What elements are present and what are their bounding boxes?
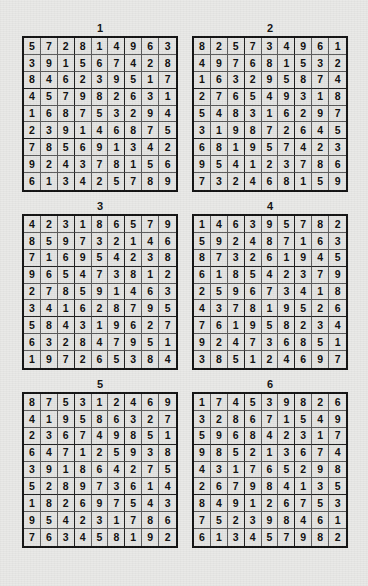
sudoku-cell[interactable]: 7	[41, 394, 58, 411]
sudoku-cell[interactable]: 1	[92, 394, 109, 411]
sudoku-cell[interactable]: 4	[108, 250, 125, 267]
sudoku-cell[interactable]: 1	[194, 216, 211, 233]
sudoku-cell[interactable]: 2	[142, 411, 159, 428]
sudoku-cell[interactable]: 9	[278, 89, 295, 106]
sudoku-cell[interactable]: 9	[108, 317, 125, 334]
sudoku-cell[interactable]: 2	[295, 317, 312, 334]
sudoku-cell[interactable]: 4	[92, 428, 109, 445]
sudoku-cell[interactable]: 8	[211, 351, 228, 368]
sudoku-cell[interactable]: 7	[295, 216, 312, 233]
sudoku-cell[interactable]: 8	[108, 529, 125, 546]
sudoku-cell[interactable]: 2	[142, 317, 159, 334]
sudoku-cell[interactable]: 4	[262, 267, 279, 284]
sudoku-cell[interactable]: 5	[159, 300, 176, 317]
sudoku-cell[interactable]: 3	[295, 428, 312, 445]
sudoku-cell[interactable]: 9	[245, 139, 262, 156]
sudoku-cell[interactable]: 4	[108, 38, 125, 55]
sudoku-cell[interactable]: 6	[159, 512, 176, 529]
sudoku-cell[interactable]: 2	[278, 428, 295, 445]
sudoku-cell[interactable]: 9	[245, 317, 262, 334]
sudoku-cell[interactable]: 2	[262, 156, 279, 173]
sudoku-cell[interactable]: 5	[142, 334, 159, 351]
sudoku-cell[interactable]: 1	[159, 89, 176, 106]
sudoku-cell[interactable]: 2	[329, 529, 346, 546]
sudoku-cell[interactable]: 4	[75, 173, 92, 190]
sudoku-cell[interactable]: 6	[228, 89, 245, 106]
sudoku-cell[interactable]: 8	[108, 156, 125, 173]
sudoku-cell[interactable]: 6	[92, 55, 109, 72]
sudoku-cell[interactable]: 9	[24, 512, 41, 529]
sudoku-cell[interactable]: 2	[24, 428, 41, 445]
sudoku-cell[interactable]: 3	[75, 156, 92, 173]
sudoku-cell[interactable]: 1	[295, 233, 312, 250]
sudoku-cell[interactable]: 2	[125, 462, 142, 479]
sudoku-cell[interactable]: 9	[194, 445, 211, 462]
sudoku-cell[interactable]: 7	[228, 300, 245, 317]
sudoku-cell[interactable]: 1	[142, 478, 159, 495]
sudoku-cell[interactable]: 4	[142, 233, 159, 250]
sudoku-cell[interactable]: 4	[295, 512, 312, 529]
sudoku-cell[interactable]: 8	[125, 428, 142, 445]
sudoku-cell[interactable]: 5	[228, 351, 245, 368]
sudoku-cell[interactable]: 7	[142, 462, 159, 479]
sudoku-cell[interactable]: 3	[228, 72, 245, 89]
sudoku-cell[interactable]: 8	[125, 122, 142, 139]
sudoku-cell[interactable]: 8	[58, 284, 75, 301]
sudoku-cell[interactable]: 9	[312, 351, 329, 368]
sudoku-cell[interactable]: 9	[125, 334, 142, 351]
sudoku-cell[interactable]: 2	[142, 55, 159, 72]
sudoku-cell[interactable]: 1	[125, 156, 142, 173]
sudoku-cell[interactable]: 3	[41, 122, 58, 139]
sudoku-cell[interactable]: 1	[58, 462, 75, 479]
sudoku-cell[interactable]: 8	[159, 55, 176, 72]
sudoku-cell[interactable]: 7	[24, 529, 41, 546]
sudoku-cell[interactable]: 1	[194, 394, 211, 411]
sudoku-cell[interactable]: 5	[245, 394, 262, 411]
sudoku-cell[interactable]: 9	[58, 233, 75, 250]
sudoku-cell[interactable]: 6	[92, 462, 109, 479]
sudoku-cell[interactable]: 5	[211, 512, 228, 529]
sudoku-cell[interactable]: 6	[75, 300, 92, 317]
sudoku-cell[interactable]: 5	[41, 512, 58, 529]
sudoku-cell[interactable]: 1	[278, 55, 295, 72]
sudoku-cell[interactable]: 5	[41, 89, 58, 106]
sudoku-cell[interactable]: 6	[108, 122, 125, 139]
sudoku-cell[interactable]: 3	[245, 216, 262, 233]
sudoku-cell[interactable]: 1	[295, 478, 312, 495]
sudoku-cell[interactable]: 5	[245, 89, 262, 106]
sudoku-cell[interactable]: 2	[194, 478, 211, 495]
sudoku-cell[interactable]: 7	[92, 267, 109, 284]
sudoku-cell[interactable]: 7	[312, 72, 329, 89]
sudoku-cell[interactable]: 7	[278, 233, 295, 250]
sudoku-cell[interactable]: 9	[278, 300, 295, 317]
sudoku-cell[interactable]: 7	[211, 250, 228, 267]
sudoku-cell[interactable]: 4	[125, 55, 142, 72]
sudoku-cell[interactable]: 4	[159, 106, 176, 123]
sudoku-cell[interactable]: 9	[108, 72, 125, 89]
sudoku-cell[interactable]: 6	[312, 233, 329, 250]
sudoku-cell[interactable]: 9	[92, 495, 109, 512]
sudoku-cell[interactable]: 8	[312, 156, 329, 173]
sudoku-cell[interactable]: 9	[159, 173, 176, 190]
sudoku-cell[interactable]: 7	[194, 512, 211, 529]
sudoku-cell[interactable]: 4	[125, 394, 142, 411]
sudoku-cell[interactable]: 2	[41, 156, 58, 173]
sudoku-cell[interactable]: 6	[245, 411, 262, 428]
sudoku-cell[interactable]: 7	[159, 72, 176, 89]
sudoku-cell[interactable]: 9	[312, 106, 329, 123]
sudoku-cell[interactable]: 6	[125, 89, 142, 106]
sudoku-cell[interactable]: 8	[75, 38, 92, 55]
sudoku-cell[interactable]: 3	[194, 351, 211, 368]
sudoku-cell[interactable]: 5	[228, 38, 245, 55]
sudoku-cell[interactable]: 3	[194, 411, 211, 428]
sudoku-cell[interactable]: 2	[228, 173, 245, 190]
sudoku-cell[interactable]: 8	[41, 495, 58, 512]
sudoku-cell[interactable]: 1	[194, 72, 211, 89]
sudoku-cell[interactable]: 4	[92, 334, 109, 351]
sudoku-cell[interactable]: 6	[108, 216, 125, 233]
sudoku-cell[interactable]: 3	[228, 529, 245, 546]
sudoku-cell[interactable]: 4	[194, 55, 211, 72]
sudoku-cell[interactable]: 8	[278, 317, 295, 334]
sudoku-cell[interactable]: 9	[41, 351, 58, 368]
sudoku-cell[interactable]: 2	[24, 284, 41, 301]
